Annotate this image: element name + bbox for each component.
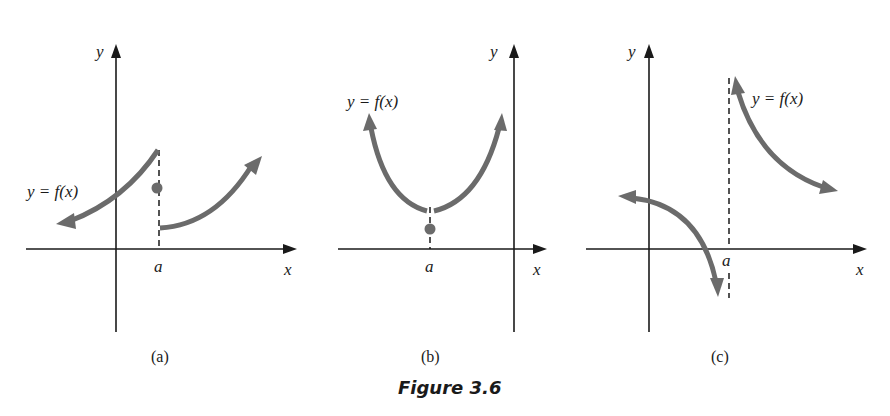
panel-c: y x a y = f(x) (c): [586, 42, 867, 366]
function-label: y = f(x): [345, 92, 398, 111]
u-curve-left: [371, 128, 427, 211]
down-arrowhead-icon: [710, 278, 724, 297]
left-arrowhead-icon: [56, 213, 76, 229]
x-axis-arrow-icon: [533, 244, 547, 254]
left-branch-curve: [632, 198, 716, 282]
right-arrowhead-icon: [819, 180, 838, 194]
left-arrowhead-icon: [618, 190, 636, 204]
a-label: a: [425, 257, 434, 276]
point-fa: [425, 224, 436, 235]
left-arrowhead-icon: [363, 113, 377, 131]
u-curve-right: [434, 128, 499, 211]
y-axis-arrow-icon: [644, 44, 654, 58]
point-fa: [152, 183, 163, 194]
caption-b: (b): [421, 348, 440, 366]
caption-c: (c): [711, 348, 729, 366]
up-arrowhead-icon: [731, 76, 745, 95]
figure-title: Figure 3.6: [398, 377, 501, 398]
a-label: a: [722, 251, 731, 270]
x-label: x: [855, 260, 864, 279]
x-label: x: [283, 260, 292, 279]
panel-b: y x a y = f(x) (b) Figure 3.6: [338, 42, 547, 398]
left-branch-curve: [70, 150, 158, 221]
y-axis-arrow-icon: [111, 44, 121, 58]
figure-3-6: y x a y = f(x) (a) y x a y = f(x) (b) Fi…: [0, 0, 890, 416]
y-axis-arrow-icon: [509, 44, 519, 58]
right-branch-curve: [160, 165, 252, 228]
y-label: y: [94, 42, 104, 61]
y-label: y: [626, 42, 636, 61]
y-label: y: [488, 42, 498, 61]
function-label: y = f(x): [750, 89, 803, 108]
panel-a: y x a y = f(x) (a): [25, 42, 297, 366]
a-label: a: [154, 257, 163, 276]
caption-a: (a): [151, 348, 169, 366]
function-label: y = f(x): [25, 182, 78, 201]
x-axis-arrow-icon: [283, 244, 297, 254]
right-arrowhead-icon: [494, 113, 507, 131]
x-axis-arrow-icon: [853, 244, 867, 254]
x-label: x: [532, 260, 541, 279]
